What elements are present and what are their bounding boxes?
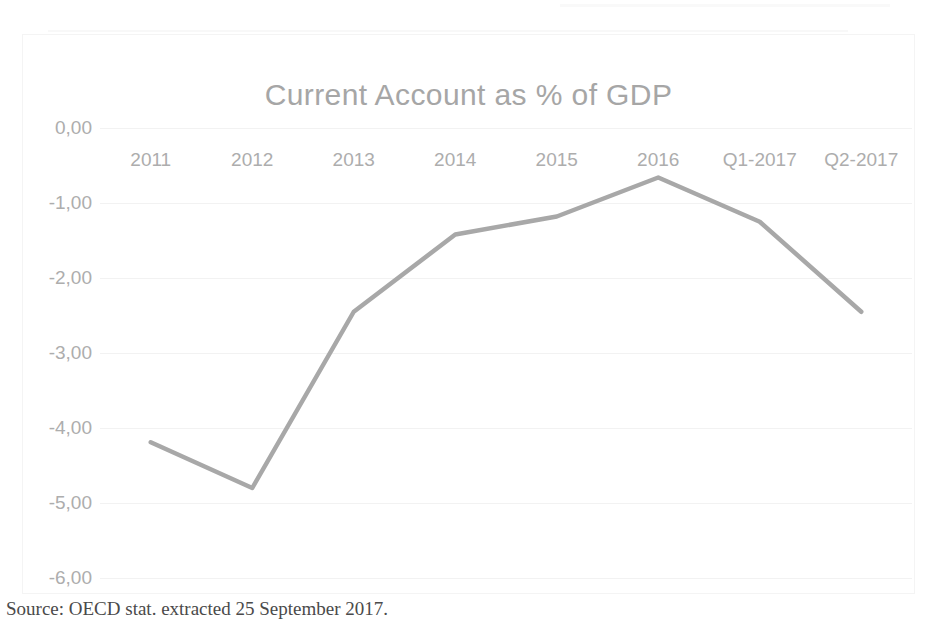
series-line-layer xyxy=(0,0,937,628)
x-axis-tick-label: Q1-2017 xyxy=(723,149,797,171)
y-axis-tick-label: -2,00 xyxy=(30,267,92,289)
y-axis-tick-label: -4,00 xyxy=(30,417,92,439)
y-axis-tick-label: 0,00 xyxy=(30,117,92,139)
y-axis-tick-label: -5,00 xyxy=(30,492,92,514)
x-axis-tick-label: Q2-2017 xyxy=(824,149,898,171)
y-axis-tick-label: -1,00 xyxy=(30,192,92,214)
y-axis-tick-label: -3,00 xyxy=(30,342,92,364)
x-axis-tick-label: 2014 xyxy=(434,149,476,171)
x-axis-tick-label: 2012 xyxy=(231,149,273,171)
x-axis-tick-label: 2015 xyxy=(536,149,578,171)
y-axis-tick-label: -6,00 xyxy=(30,567,92,589)
source-note: Source: OECD stat. extracted 25 Septembe… xyxy=(6,598,388,620)
x-axis-tick-label: 2013 xyxy=(333,149,375,171)
x-axis-tick-label: 2016 xyxy=(637,149,679,171)
x-axis-tick-label: 2011 xyxy=(130,149,171,171)
series-line-current-account xyxy=(151,178,862,489)
